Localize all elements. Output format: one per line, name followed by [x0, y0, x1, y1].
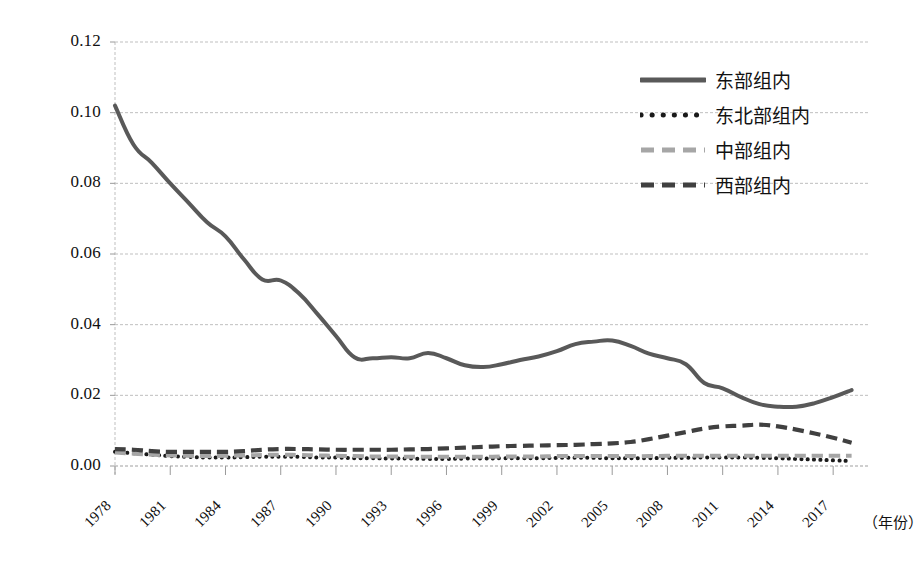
legend-label: 中部组内	[715, 136, 791, 163]
chart-legend: 东部组内东北部组内中部组内西部组内	[640, 62, 810, 202]
legend-swatch-icon	[640, 108, 706, 122]
y-axis-label: 0.10	[29, 102, 101, 122]
legend-swatch-icon	[640, 73, 706, 87]
x-axis-title: （年份）	[863, 511, 922, 532]
series-line-3	[115, 425, 852, 452]
legend-item-2[interactable]: 中部组内	[640, 132, 810, 167]
legend-swatch-icon	[640, 143, 706, 157]
legend-item-0[interactable]: 东部组内	[640, 62, 810, 97]
line-chart: 0.000.020.040.060.080.100.12 19781981198…	[0, 0, 922, 575]
legend-label: 东部组内	[715, 66, 791, 93]
y-axis-label: 0.00	[29, 455, 101, 475]
legend-item-3[interactable]: 西部组内	[640, 167, 810, 202]
legend-item-1[interactable]: 东北部组内	[640, 97, 810, 132]
y-axis-label: 0.04	[29, 314, 101, 334]
y-axis-label: 0.06	[29, 243, 101, 263]
y-axis-label: 0.08	[29, 172, 101, 192]
legend-label: 东北部组内	[715, 101, 810, 128]
legend-label: 西部组内	[715, 171, 791, 198]
y-axis-label: 0.02	[29, 384, 101, 404]
y-axis-label: 0.12	[29, 31, 101, 51]
legend-swatch-icon	[640, 178, 706, 192]
